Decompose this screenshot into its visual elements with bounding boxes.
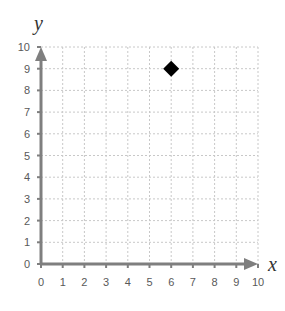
- y-tick-label: 6: [24, 128, 30, 140]
- y-tick-label: 9: [24, 63, 30, 75]
- x-tick-label: 3: [103, 276, 109, 288]
- tick-labels: 012345678910012345678910: [18, 41, 264, 288]
- y-tick-label: 3: [24, 193, 30, 205]
- diamond-marker-icon: [163, 61, 179, 77]
- y-tick-label: 5: [24, 150, 30, 162]
- x-tick-label: 5: [146, 276, 152, 288]
- x-tick-label: 4: [125, 276, 131, 288]
- x-tick-label: 1: [60, 276, 66, 288]
- y-tick-label: 1: [24, 236, 30, 248]
- x-axis-title: x: [267, 253, 277, 275]
- x-axis-arrow-icon: [244, 258, 258, 270]
- x-tick-label: 0: [38, 276, 44, 288]
- x-tick-label: 7: [190, 276, 196, 288]
- x-tick-label: 2: [81, 276, 87, 288]
- data-points: [163, 61, 179, 77]
- y-tick-label: 2: [24, 215, 30, 227]
- y-tick-label: 7: [24, 106, 30, 118]
- y-axis-arrow-icon: [35, 47, 47, 61]
- y-axis-title: y: [32, 12, 43, 35]
- axes: [35, 47, 258, 270]
- x-tick-label: 6: [168, 276, 174, 288]
- x-tick-label: 9: [233, 276, 239, 288]
- y-tick-label: 0: [24, 258, 30, 270]
- y-tick-label: 4: [24, 171, 30, 183]
- coordinate-plane: 012345678910012345678910 y x: [0, 0, 285, 311]
- x-tick-label: 8: [212, 276, 218, 288]
- x-tick-label: 10: [252, 276, 264, 288]
- y-tick-label: 10: [18, 41, 30, 53]
- y-tick-label: 8: [24, 84, 30, 96]
- grid-lines: [41, 47, 258, 264]
